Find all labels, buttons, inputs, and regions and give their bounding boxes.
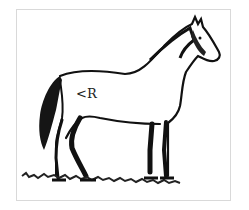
- horse-front-leg-far: [150, 124, 152, 172]
- horse-hind-leg-near: [56, 120, 62, 178]
- horse-head-shading: [191, 30, 206, 56]
- horse-hind-leg-far: [71, 118, 86, 176]
- brand-mark: <R: [76, 86, 98, 101]
- horse-illustration: <R: [0, 0, 249, 210]
- horse-eye: [199, 37, 202, 40]
- horse-mane: [150, 28, 194, 60]
- horse-front-leg-near: [164, 122, 166, 176]
